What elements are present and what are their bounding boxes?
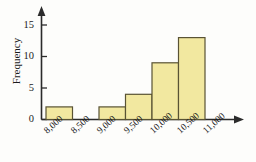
bar-series [46, 38, 205, 120]
histogram-figure: Frequency 0 5 10 15 8,000 8,500 9,000 9,… [0, 0, 256, 162]
bar-10,500-11,000 [179, 38, 206, 120]
histogram-plot [0, 0, 256, 162]
y-tick-label-0: 0 [12, 113, 34, 124]
y-tick-marks [42, 25, 48, 120]
y-tick-label-10: 10 [12, 50, 34, 61]
y-tick-label-15: 15 [12, 19, 34, 30]
y-axis [38, 6, 46, 120]
y-tick-label-5: 5 [12, 82, 34, 93]
